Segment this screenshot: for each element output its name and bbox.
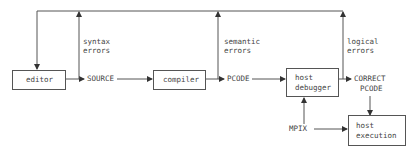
host-debugger-label-line2: debugger [295,83,331,93]
compiler-label: compiler [163,75,199,85]
editor-box: editor [12,70,66,90]
semantic-errors-label-line2: errors [224,46,251,56]
source-label: SOURCE [87,74,114,84]
correct-pcode-label-line1: CORRECT [354,74,386,84]
host-execution-label-line2: execution [356,131,397,141]
correct-pcode-label-line2: PCODE [360,84,383,94]
host-execution-box: host execution [348,115,406,146]
mpix-label: MPIX [289,124,307,134]
pcode-label: PCODE [227,74,250,84]
program-development-diagram: editor compiler host debugger host execu… [0,0,416,153]
host-debugger-label-line1: host [295,73,313,83]
host-execution-label-line1: host [356,121,374,131]
compiler-box: compiler [153,70,206,90]
logical-errors-label-line2: errors [347,46,374,56]
syntax-errors-label-line2: errors [83,46,110,56]
editor-label: editor [26,75,53,85]
host-debugger-box: host debugger [286,68,339,97]
